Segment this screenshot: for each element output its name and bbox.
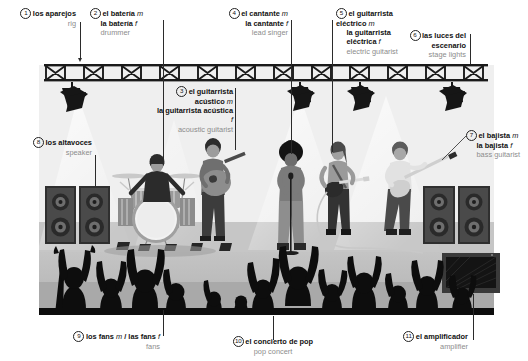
label-7-bass-guitarist[interactable]: 7el bajista m la bajista f bass guitaris…	[466, 130, 528, 159]
label-7-english: bass guitarist	[466, 150, 528, 159]
leader-line-3	[235, 88, 236, 150]
label-7-gender: m	[512, 131, 518, 140]
label-1-rig[interactable]: 1los aparejos rig	[0, 8, 76, 28]
label-number-7: 7	[466, 130, 477, 141]
leader-line-1	[80, 22, 81, 60]
label-3-english: acoustic guitarist	[155, 125, 233, 134]
label-4-gender2: f	[286, 19, 288, 28]
label-number-5: 5	[336, 8, 347, 19]
label-8-english: speaker	[10, 148, 92, 157]
label-2-drummer[interactable]: 2el batería m la batería f drummer	[90, 8, 162, 37]
label-9-spanish: los fans	[86, 332, 114, 341]
label-10-spanish: el concierto de pop	[245, 337, 313, 346]
label-number-8: 8	[33, 137, 44, 148]
label-5-spanish2: la guitarrista eléctrica	[347, 28, 391, 46]
label-7-gender2: f	[510, 141, 512, 150]
label-9-english: fans	[14, 342, 160, 351]
label-2-spanish2: la batería	[101, 19, 133, 28]
label-3-gender2: f	[231, 115, 233, 124]
label-3-acoustic-guitarist[interactable]: 3el guitarrista acústico m la guitarrist…	[155, 86, 233, 134]
leader-arrow-1	[78, 58, 82, 62]
label-number-1: 1	[20, 8, 31, 19]
label-number-6: 6	[410, 30, 421, 41]
label-9-gender: m	[116, 332, 122, 341]
leader-line-8	[95, 155, 96, 187]
leader-line-6	[470, 34, 471, 64]
label-5-gender2: f	[379, 37, 381, 46]
label-6-english: stage lights	[400, 50, 466, 59]
label-1-spanish: los aparejos	[33, 9, 76, 18]
label-number-9: 9	[73, 331, 84, 342]
label-2-gender2: f	[135, 19, 137, 28]
label-9-spanish2: las fans	[128, 332, 156, 341]
label-1-english: rig	[0, 19, 76, 28]
label-number-11: 11	[403, 331, 414, 342]
label-9-separator: /	[124, 332, 126, 341]
label-number-10: 10	[233, 336, 244, 347]
label-10-english: pop concert	[198, 347, 348, 356]
label-3-gender: m	[227, 97, 233, 106]
label-9-fans[interactable]: 9los fans m / las fans f fans	[14, 331, 160, 351]
label-11-spanish: el amplificador	[416, 332, 468, 341]
leader-line-5	[332, 20, 333, 152]
label-8-speaker[interactable]: 8los altavoces speaker	[10, 137, 92, 157]
label-2-english: drummer	[90, 28, 162, 37]
label-4-spanish2: la cantante	[245, 19, 284, 28]
label-8-spanish: los altavoces	[46, 138, 92, 147]
label-4-lead-singer[interactable]: 4el cantante m la cantante f lead singer	[212, 8, 288, 37]
label-2-spanish: el batería	[103, 9, 135, 18]
label-11-amplifier[interactable]: 11el amplificador amplifier	[370, 331, 468, 351]
label-6-spanish: las luces del escenario	[422, 31, 466, 51]
label-7-spanish2: la bajista	[477, 141, 509, 150]
leader-line-4	[291, 20, 292, 154]
label-3-spanish2: la guitarrista acústica	[157, 106, 233, 115]
label-6-stage-lights[interactable]: 6las luces del escenario stage lights	[400, 30, 466, 59]
label-2-gender: m	[137, 9, 143, 18]
label-4-english: lead singer	[212, 28, 288, 37]
label-number-2: 2	[90, 8, 101, 19]
label-number-3: 3	[176, 86, 187, 97]
label-4-gender: m	[282, 9, 288, 18]
label-7-spanish: el bajista	[479, 131, 511, 140]
label-number-4: 4	[229, 8, 240, 19]
label-5-gender: m	[368, 19, 374, 28]
leader-line-9	[163, 310, 164, 336]
label-4-spanish: el cantante	[241, 9, 280, 18]
label-10-pop-concert[interactable]: 10el concierto de pop pop concert	[198, 336, 348, 356]
leader-line-11	[473, 294, 474, 340]
label-9-gender2: f	[158, 332, 160, 341]
illustration-page: 1los aparejos rig 2el batería m la bater…	[0, 0, 528, 361]
label-11-english: amplifier	[370, 342, 468, 351]
